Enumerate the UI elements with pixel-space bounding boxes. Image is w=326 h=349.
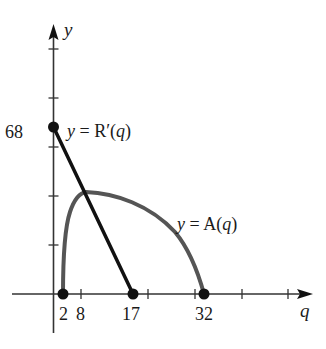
point-q2: [58, 289, 69, 300]
x-tick-label-2: 2: [59, 304, 68, 324]
point-q17: [128, 289, 139, 300]
x-tick-label-8: 8: [76, 304, 85, 324]
y-tick-label-68: 68: [5, 122, 23, 142]
point-q32: [199, 289, 210, 300]
chart: y q 68 2 8 17 32 y = R′(q) y = A(q): [0, 0, 326, 349]
x-axis-label: q: [300, 300, 310, 321]
point-68: [48, 122, 59, 133]
series-rprime-line: [54, 127, 134, 294]
annotation-a: y = A(q): [175, 214, 237, 235]
x-tick-label-32: 32: [195, 304, 213, 324]
y-axis-label: y: [62, 19, 73, 40]
annotation-rprime: y = R′(q): [65, 121, 131, 142]
series-a-curve: [63, 192, 204, 294]
axes: [12, 24, 313, 333]
x-tick-label-17: 17: [122, 304, 140, 324]
